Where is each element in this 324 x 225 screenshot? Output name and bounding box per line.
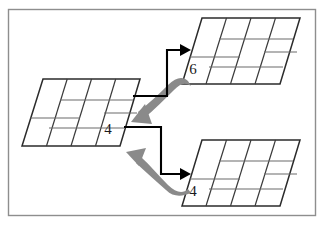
bottom-grid-label: 4: [189, 183, 197, 199]
top-grid-label: 6: [189, 61, 197, 77]
figure-root: 4 6 4: [0, 0, 324, 225]
center-grid-label: 4: [104, 121, 112, 137]
center-parallelogram: 4: [22, 79, 140, 146]
diagram-canvas: 4 6 4: [0, 0, 324, 225]
bottom-right-parallelogram: 4: [182, 140, 300, 206]
top-right-parallelogram: 6: [182, 18, 300, 84]
